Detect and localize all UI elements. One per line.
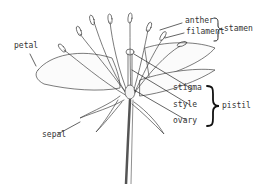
label-pistil: pistil [222, 102, 251, 110]
label-filament: filament [186, 28, 225, 36]
pistil-brace [207, 86, 219, 126]
label-stamen: stamen [224, 25, 253, 33]
label-sepal: sepal [42, 131, 66, 139]
stem [126, 100, 130, 184]
label-petal: petal [14, 42, 38, 50]
leader-anther [160, 23, 182, 30]
label-anther: anther [185, 17, 214, 25]
label-ovary: ovary [173, 117, 197, 125]
leader-petal [30, 54, 36, 66]
leader-filament [165, 33, 184, 38]
label-style: style [173, 101, 197, 109]
label-stigma: stigma [173, 84, 202, 92]
